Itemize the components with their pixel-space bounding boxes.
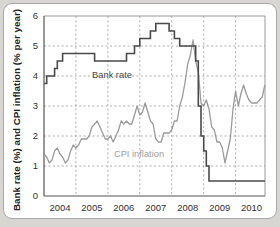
x-tick-label: 2008: [177, 202, 198, 213]
y-tick-label: 3: [33, 100, 38, 111]
y-tick-label: 5: [33, 40, 38, 51]
bank-rate-cpi-chart: 0123456 2004200520062007200820092010 Ban…: [0, 0, 280, 227]
y-tick-label: 2: [33, 130, 38, 141]
x-tick-label: 2006: [113, 202, 134, 213]
y-tick-label: 1: [33, 160, 38, 171]
cpi-inflation-series-label: CPI inflation: [114, 149, 164, 159]
x-axis-labels: 2004200520062007200820092010: [49, 202, 262, 213]
x-tick-label: 2009: [209, 202, 230, 213]
y-tick-label: 0: [33, 190, 38, 201]
x-tick-label: 2004: [49, 202, 70, 213]
y-axis-labels: 0123456: [33, 10, 38, 201]
bank-rate-series-label: Bank rate: [92, 70, 132, 80]
y-axis-title: Bank rate (%) and CPI inflation (% per y…: [12, 9, 22, 211]
y-tick-label: 6: [33, 10, 38, 21]
x-tick-label: 2007: [145, 202, 166, 213]
x-tick-label: 2005: [81, 202, 102, 213]
y-tick-label: 4: [33, 70, 38, 81]
x-tick-label: 2010: [241, 202, 262, 213]
cpi-inflation-line: [44, 40, 265, 163]
gridlines: [44, 16, 265, 196]
